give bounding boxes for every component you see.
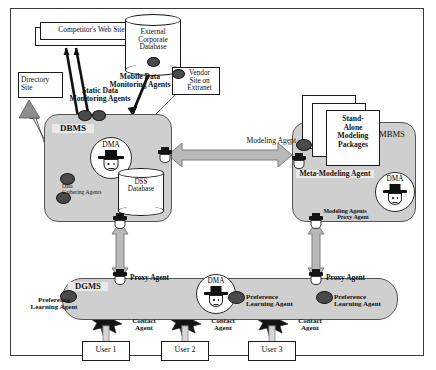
modeling-agent-icon[interactable] [296, 139, 312, 151]
dma-face-icon [204, 286, 228, 308]
dma-dgms-label: DMA [197, 278, 235, 285]
meta-modeling-agent-icon[interactable] [292, 156, 306, 170]
preference-learning-agent-icon-3[interactable] [316, 291, 333, 304]
directory-site-box[interactable]: Directory Site [18, 72, 63, 98]
dgms-right-proxy-agent-icon[interactable] [309, 272, 323, 286]
dma-mbms[interactable]: DMA [375, 172, 415, 212]
contact-agent-label-1: Contact Agent [122, 318, 166, 333]
modeling-agent-label: Modeling Agent [236, 137, 296, 145]
user-box-3[interactable]: User 3 [248, 341, 296, 361]
mobile-data-monitoring-agents-label: Mobile Data Monitoring Agents [98, 73, 182, 89]
dbms-label: DBMS [52, 124, 94, 133]
preference-learning-agent-label-2: Preference Learning Agent [246, 294, 318, 309]
dbms-right-proxy-agent-icon[interactable] [158, 150, 172, 164]
dss-database[interactable]: DSS Database [118, 168, 164, 216]
user-3-label: User 3 [249, 346, 295, 354]
preference-learning-agent-label-1: Preference Learning Agent [18, 297, 90, 312]
cylinder-bottom [118, 206, 164, 216]
directory-site-label: Directory Site [21, 76, 62, 92]
dgms-left-proxy-agent-icon[interactable] [113, 272, 127, 286]
dma-mbms-label: DMA [376, 176, 414, 183]
dbms-bottom-proxy-agent-icon[interactable] [113, 216, 127, 230]
standalone-packages-label: Stand- Alone Modeling Packages [327, 115, 379, 150]
static-data-monitoring-agent-icon-1[interactable] [78, 110, 92, 121]
cylinder-top [125, 14, 181, 26]
static-data-monitoring-agents-label: Static Data Monitoring Agents [58, 87, 142, 103]
preference-learning-agent-label-3: Preference Learning Agent [334, 294, 406, 309]
contact-agent-label-3: Contact Agent [288, 318, 332, 333]
vendor-site-label: Vendor Site on Extranet [181, 70, 218, 93]
static-data-monitoring-agent-icon-2[interactable] [92, 110, 106, 121]
dma-face-icon [383, 184, 407, 206]
user-box-1[interactable]: User 1 [82, 341, 130, 361]
diagram-canvas: .ln{stroke:#1a1a1a;fill:none;} .thin{str… [0, 0, 436, 370]
dss-database-label: DSS Database [118, 179, 164, 194]
dma-dbms-label: DMA [91, 141, 131, 149]
mbms-bottom-proxy-agent-icon[interactable] [309, 216, 323, 230]
dgms-label: DGMS [68, 282, 108, 291]
dgms-right-proxy-agent-label: Proxy Agent [326, 274, 390, 282]
user-2-label: User 2 [162, 346, 208, 354]
external-corporate-database-label: External Corporate Database [125, 28, 181, 51]
user-box-2[interactable]: User 2 [161, 341, 209, 361]
user-1-label: User 1 [83, 346, 129, 354]
dgms-left-proxy-agent-label: Proxy Agent [130, 274, 194, 282]
meta-modeling-agent-label: Meta-Modeling Agent [296, 170, 374, 178]
preference-learning-agent-icon-2[interactable] [228, 291, 245, 304]
standalone-packages-box[interactable]: Stand- Alone Modeling Packages [326, 110, 380, 166]
cylinder-top [118, 168, 164, 178]
mobile-data-monitoring-agent-icon[interactable] [147, 57, 160, 67]
contact-agent-label-2: Contact Agent [201, 318, 245, 333]
data-gathering-agents-label: Data Gathering Agents [62, 184, 124, 196]
mbms-proxy-agent-label: Proxy Agent [318, 214, 388, 220]
